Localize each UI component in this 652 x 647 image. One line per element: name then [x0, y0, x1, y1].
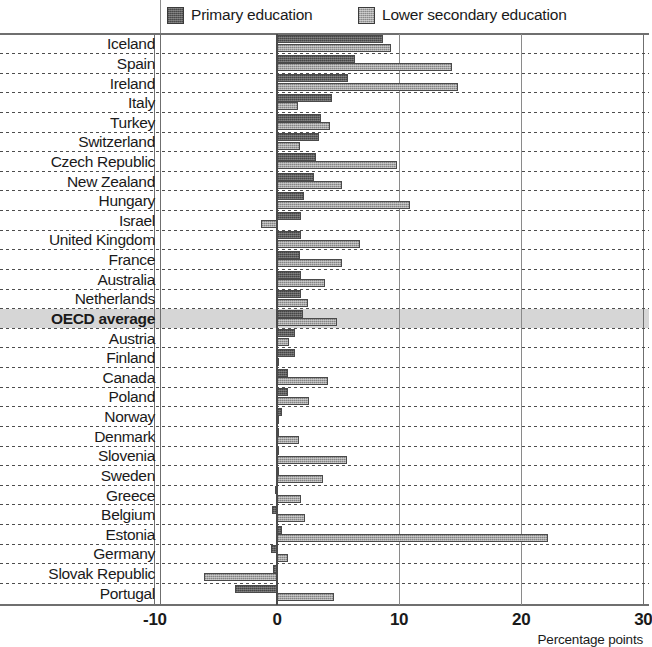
chart-legend: Primary education Lower secondary educat… — [0, 0, 649, 33]
bar-primary-norway — [277, 408, 282, 416]
x-axis-title: Percentage points — [538, 632, 643, 647]
bar-primary-france — [277, 251, 300, 259]
bar-lower-poland — [277, 397, 309, 405]
bar-lower-oecd-average — [277, 318, 337, 326]
label-gutter-divider — [160, 33, 161, 606]
legend-item-lower-secondary-education: Lower secondary education — [358, 6, 567, 24]
bar-lower-iceland — [277, 44, 391, 52]
chart-row: Germany — [0, 544, 649, 564]
row-label-turkey: Turkey — [110, 115, 155, 131]
bar-lower-portugal — [277, 593, 334, 601]
bar-lower-france — [277, 259, 342, 267]
chart-row: Finland — [0, 348, 649, 368]
bar-lower-israel — [261, 220, 277, 228]
bar-primary-belgium — [272, 506, 277, 514]
x-axis: -100102030 Percentage points — [0, 606, 649, 647]
chart-row: Hungary — [0, 191, 649, 211]
bar-primary-sweden — [277, 467, 279, 475]
bar-primary-czech-republic — [277, 153, 316, 161]
bar-primary-spain — [277, 55, 355, 63]
row-label-canada: Canada — [103, 370, 156, 386]
bar-lower-netherlands — [277, 299, 308, 307]
bar-lower-switzerland — [277, 142, 300, 150]
bar-primary-netherlands — [277, 290, 301, 298]
bar-primary-new-zealand — [277, 173, 314, 181]
bar-lower-turkey — [277, 122, 330, 130]
x-tick-10: 10 — [390, 610, 408, 630]
chart-row: Austria — [0, 328, 649, 348]
bar-primary-iceland — [277, 35, 383, 43]
bar-primary-germany — [271, 545, 277, 553]
chart-row: United Kingdom — [0, 230, 649, 250]
bar-primary-portugal — [235, 585, 277, 593]
bar-lower-norway — [277, 416, 279, 424]
chart-row: Norway — [0, 407, 649, 427]
bar-lower-czech-republic — [277, 161, 397, 169]
chart-row: Israel — [0, 211, 649, 231]
row-label-israel: Israel — [119, 213, 155, 229]
chart-row: Denmark — [0, 426, 649, 446]
row-label-norway: Norway — [104, 409, 155, 425]
bar-primary-poland — [277, 388, 288, 396]
bar-lower-denmark — [277, 436, 299, 444]
row-label-finland: Finland — [106, 350, 155, 366]
bar-primary-austria — [277, 329, 295, 337]
chart-row: Turkey — [0, 112, 649, 132]
chart-row: Slovenia — [0, 446, 649, 466]
bar-primary-israel — [277, 212, 301, 220]
legend-swatch-lower-icon — [358, 7, 375, 24]
bar-lower-belgium — [277, 514, 305, 522]
row-label-new-zealand: New Zealand — [67, 174, 155, 190]
chart-row: Slovak Republic — [0, 564, 649, 584]
bar-primary-finland — [277, 349, 295, 357]
bar-primary-italy — [277, 94, 332, 102]
chart-row: Netherlands — [0, 289, 649, 309]
row-label-estonia: Estonia — [105, 527, 155, 543]
row-label-united-kingdom: United Kingdom — [49, 232, 155, 248]
bar-lower-new-zealand — [277, 181, 342, 189]
row-label-greece: Greece — [106, 488, 155, 504]
row-label-ireland: Ireland — [110, 76, 155, 92]
chart-row: Poland — [0, 387, 649, 407]
bar-lower-hungary — [277, 201, 410, 209]
bar-lower-italy — [277, 102, 298, 110]
chart-row: Ireland — [0, 73, 649, 93]
x-tick-0: 0 — [272, 610, 281, 630]
chart-row: Canada — [0, 368, 649, 388]
bar-lower-finland — [277, 358, 279, 366]
bar-primary-slovenia — [277, 447, 279, 455]
bar-primary-denmark — [277, 428, 279, 436]
row-label-slovak-republic: Slovak Republic — [48, 566, 155, 582]
chart-row: Iceland — [0, 34, 649, 54]
chart-row: France — [0, 250, 649, 270]
bar-lower-greece — [277, 495, 301, 503]
row-label-france: France — [109, 252, 155, 268]
row-label-iceland: Iceland — [107, 36, 155, 52]
row-label-australia: Australia — [97, 272, 155, 288]
legend-swatch-primary-icon — [167, 7, 184, 24]
bar-primary-united-kingdom — [277, 231, 301, 239]
chart-row: Spain — [0, 54, 649, 74]
row-label-austria: Austria — [109, 331, 155, 347]
row-label-switzerland: Switzerland — [78, 134, 155, 150]
x-tick--10: -10 — [143, 610, 167, 630]
bar-primary-canada — [277, 369, 288, 377]
bar-lower-slovak-republic — [204, 573, 277, 581]
legend-label-lower: Lower secondary education — [382, 6, 567, 24]
bar-lower-germany — [277, 554, 288, 562]
chart-row: Sweden — [0, 466, 649, 486]
bar-primary-australia — [277, 271, 301, 279]
bar-lower-united-kingdom — [277, 240, 360, 248]
bar-primary-greece — [275, 486, 277, 494]
chart-row: OECD average — [0, 309, 649, 329]
row-label-belgium: Belgium — [101, 507, 155, 523]
row-label-poland: Poland — [109, 389, 155, 405]
row-label-sweden: Sweden — [101, 468, 155, 484]
bar-primary-ireland — [277, 74, 348, 82]
bar-lower-spain — [277, 63, 452, 71]
x-tick-30: 30 — [634, 610, 652, 630]
row-label-slovenia: Slovenia — [98, 448, 155, 464]
bar-lower-canada — [277, 377, 328, 385]
legend-label-primary: Primary education — [191, 6, 313, 24]
bar-lower-australia — [277, 279, 325, 287]
